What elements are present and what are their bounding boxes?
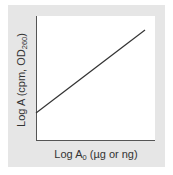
x-label-rest: (µg or ng) [87, 148, 138, 160]
y-label-rest: ) [15, 33, 27, 37]
y-label-subscript: 260 [20, 37, 29, 50]
x-axis-label: Log A0 (µg or ng) [36, 148, 156, 162]
y-label-main: Log A (cpm, OD [15, 49, 27, 127]
y-axis-label: Log A (cpm, OD260) [15, 33, 29, 127]
x-label-main: Log A [54, 148, 82, 160]
